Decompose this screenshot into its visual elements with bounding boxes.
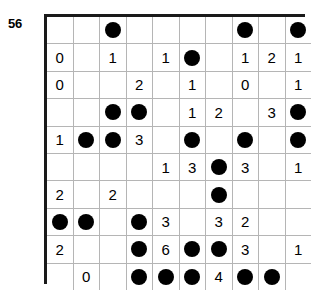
grid-cell-dot[interactable] — [206, 236, 233, 263]
grid-cell-empty[interactable] — [153, 17, 180, 44]
grid-cell-dot[interactable] — [73, 126, 100, 153]
grid-cell-empty[interactable] — [179, 181, 206, 208]
grid-cell-number[interactable]: 2 — [206, 99, 233, 126]
grid-cell-empty[interactable] — [73, 236, 100, 263]
grid-cell-number[interactable]: 1 — [47, 126, 73, 153]
grid-cell-dot[interactable] — [100, 17, 127, 44]
grid-cell-dot[interactable] — [73, 208, 100, 235]
grid-cell-empty[interactable] — [100, 263, 127, 290]
grid-cell-empty[interactable] — [259, 208, 286, 235]
grid-cell-empty[interactable] — [153, 181, 180, 208]
grid-cell-empty[interactable] — [100, 153, 127, 180]
grid-cell-number[interactable]: 1 — [232, 44, 259, 71]
grid-cell-dot[interactable] — [232, 17, 259, 44]
grid-cell-empty[interactable] — [153, 126, 180, 153]
grid-cell-empty[interactable] — [100, 208, 127, 235]
grid-cell-dot[interactable] — [259, 263, 286, 290]
grid-cell-number[interactable]: 3 — [126, 126, 153, 153]
grid-cell-number[interactable]: 3 — [153, 208, 180, 235]
grid-cell-empty[interactable] — [73, 17, 100, 44]
grid-cell-number[interactable]: 0 — [47, 71, 73, 98]
grid-cell-empty[interactable] — [232, 99, 259, 126]
grid-cell-dot[interactable] — [179, 263, 206, 290]
grid-cell-number[interactable]: 1 — [179, 71, 206, 98]
grid-cell-empty[interactable] — [206, 126, 233, 153]
grid-cell-empty[interactable] — [47, 263, 73, 290]
grid-cell-empty[interactable] — [179, 208, 206, 235]
grid-cell-number[interactable]: 3 — [179, 153, 206, 180]
grid-cell-dot[interactable] — [47, 208, 73, 235]
grid-cell-empty[interactable] — [259, 17, 286, 44]
grid-cell-empty[interactable] — [206, 71, 233, 98]
grid-cell-number[interactable]: 0 — [47, 44, 73, 71]
grid-cell-number[interactable]: 2 — [47, 181, 73, 208]
grid-cell-dot[interactable] — [206, 181, 233, 208]
grid-cell-empty[interactable] — [285, 263, 311, 290]
grid-cell-dot[interactable] — [126, 208, 153, 235]
grid-cell-empty[interactable] — [206, 44, 233, 71]
grid-cell-dot[interactable] — [179, 126, 206, 153]
grid-cell-empty[interactable] — [179, 17, 206, 44]
grid-cell-number[interactable]: 1 — [285, 44, 311, 71]
grid-cell-empty[interactable] — [47, 99, 73, 126]
grid-cell-number[interactable]: 1 — [153, 153, 180, 180]
grid-cell-empty[interactable] — [206, 17, 233, 44]
grid-cell-number[interactable]: 1 — [153, 44, 180, 71]
grid-cell-number[interactable]: 1 — [285, 153, 311, 180]
grid-cell-dot[interactable] — [153, 263, 180, 290]
grid-cell-number[interactable]: 2 — [126, 71, 153, 98]
grid-cell-number[interactable]: 3 — [206, 208, 233, 235]
grid-cell-dot[interactable] — [126, 99, 153, 126]
grid-cell-empty[interactable] — [126, 17, 153, 44]
grid-cell-empty[interactable] — [259, 126, 286, 153]
grid-cell-empty[interactable] — [73, 99, 100, 126]
grid-cell-empty[interactable] — [259, 71, 286, 98]
grid-cell-number[interactable]: 4 — [206, 263, 233, 290]
grid-cell-empty[interactable] — [73, 153, 100, 180]
grid-cell-empty[interactable] — [259, 153, 286, 180]
grid-cell-empty[interactable] — [126, 44, 153, 71]
grid-cell-empty[interactable] — [259, 181, 286, 208]
grid-cell-number[interactable]: 2 — [232, 208, 259, 235]
grid-cell-number[interactable]: 0 — [232, 71, 259, 98]
grid-cell-empty[interactable] — [73, 44, 100, 71]
grid-cell-number[interactable]: 2 — [100, 181, 127, 208]
grid-cell-dot[interactable] — [285, 126, 311, 153]
grid-cell-empty[interactable] — [47, 153, 73, 180]
grid-cell-empty[interactable] — [47, 17, 73, 44]
grid-cell-empty[interactable] — [73, 181, 100, 208]
grid-cell-empty[interactable] — [126, 153, 153, 180]
grid-cell-empty[interactable] — [100, 71, 127, 98]
grid-cell-number[interactable]: 2 — [47, 236, 73, 263]
grid-cell-empty[interactable] — [153, 71, 180, 98]
grid-cell-dot[interactable] — [179, 44, 206, 71]
grid-cell-empty[interactable] — [285, 208, 311, 235]
grid-cell-empty[interactable] — [153, 99, 180, 126]
grid-cell-dot[interactable] — [100, 99, 127, 126]
grid-cell-empty[interactable] — [259, 236, 286, 263]
grid-cell-empty[interactable] — [126, 181, 153, 208]
grid-cell-dot[interactable] — [232, 126, 259, 153]
grid-cell-number[interactable]: 3 — [232, 236, 259, 263]
grid-cell-number[interactable]: 1 — [285, 71, 311, 98]
grid-cell-number[interactable]: 2 — [259, 44, 286, 71]
grid-cell-number[interactable]: 0 — [73, 263, 100, 290]
grid-cell-empty[interactable] — [285, 181, 311, 208]
grid-cell-number[interactable]: 6 — [153, 236, 180, 263]
grid-cell-number[interactable]: 1 — [100, 44, 127, 71]
grid-cell-dot[interactable] — [100, 126, 127, 153]
grid-cell-dot[interactable] — [206, 153, 233, 180]
grid-cell-dot[interactable] — [232, 263, 259, 290]
grid-cell-number[interactable]: 3 — [259, 99, 286, 126]
grid-cell-number[interactable]: 3 — [232, 153, 259, 180]
grid-cell-empty[interactable] — [73, 71, 100, 98]
grid-cell-dot[interactable] — [126, 263, 153, 290]
grid-cell-empty[interactable] — [232, 181, 259, 208]
grid-cell-dot[interactable] — [285, 17, 311, 44]
grid-cell-number[interactable]: 1 — [179, 99, 206, 126]
grid-cell-dot[interactable] — [285, 99, 311, 126]
grid-cell-number[interactable]: 1 — [285, 236, 311, 263]
grid-cell-dot[interactable] — [126, 236, 153, 263]
grid-cell-dot[interactable] — [179, 236, 206, 263]
grid-cell-empty[interactable] — [100, 236, 127, 263]
